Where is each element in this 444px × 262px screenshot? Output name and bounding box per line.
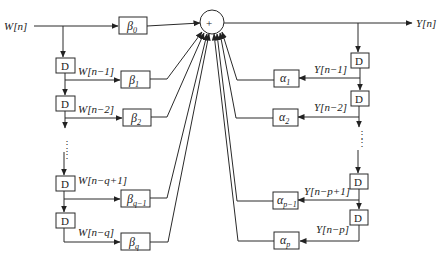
feedback-delay-chain: D D ⋮ ⋮ D D	[350, 23, 369, 225]
svg-text:D: D	[354, 176, 362, 188]
arma-block-diagram: W[n] β0 + Y[n] D D ⋮ ⋮ D D W[n−1]	[0, 0, 444, 262]
beta0-to-sum-line	[147, 23, 200, 26]
svg-text:D: D	[354, 212, 362, 224]
svg-text:D: D	[61, 60, 69, 72]
svg-text:⋮: ⋮	[357, 137, 367, 148]
plus-icon: +	[206, 17, 212, 29]
input-label: W[n]	[4, 20, 27, 32]
feedforward-delay-chain: D D ⋮ ⋮ D D	[56, 26, 75, 228]
output-label: Y[n]	[416, 17, 436, 29]
svg-text:W[n−q+1]: W[n−q+1]	[78, 174, 127, 186]
svg-text:D: D	[355, 93, 363, 105]
output-signal: Y[n]	[224, 17, 436, 29]
svg-text:Y[n−1]: Y[n−1]	[314, 63, 347, 75]
svg-text:W[n−2]: W[n−2]	[78, 103, 114, 115]
coef-beta-0: β0	[119, 17, 147, 35]
coef-beta-1: W[n−1] β1	[65, 32, 202, 89]
svg-text:D: D	[355, 55, 363, 67]
svg-text:Y[n−p+1]: Y[n−p+1]	[304, 185, 350, 197]
svg-text:D: D	[61, 98, 69, 110]
svg-text:D: D	[61, 215, 69, 227]
coef-alpha-1: Y[n−1] α1	[222, 32, 360, 87]
svg-text:W[n−q]: W[n−q]	[78, 226, 114, 238]
svg-text:Y[n−2]: Y[n−2]	[314, 101, 347, 113]
summing-junction: +	[200, 10, 224, 34]
svg-text:W[n−1]: W[n−1]	[78, 65, 114, 77]
svg-text:Y[n−p]: Y[n−p]	[316, 223, 349, 235]
input-signal: W[n]	[4, 20, 118, 32]
svg-text:D: D	[61, 178, 69, 190]
